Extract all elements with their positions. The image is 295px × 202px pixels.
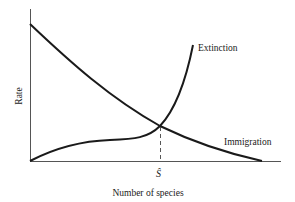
immigration-label: Immigration: [224, 137, 272, 147]
extinction-curve: [30, 45, 193, 161]
y-axis-label: Rate: [14, 87, 24, 104]
equilibrium-label: Ŝ: [156, 168, 161, 179]
chart-canvas: Extinction Immigration Ŝ Number of speci…: [0, 0, 295, 202]
extinction-label: Extinction: [198, 43, 238, 53]
x-axis-label: Number of species: [112, 188, 184, 198]
